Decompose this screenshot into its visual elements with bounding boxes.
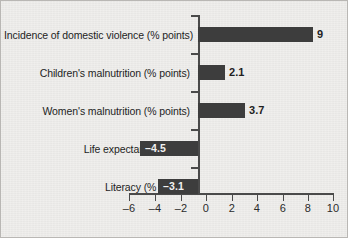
bar-childrens-malnutrition	[198, 65, 225, 80]
x-tick	[283, 195, 284, 201]
bar-value-life-expectancy: –4.5	[145, 142, 166, 154]
chart-container: Incidence of domestic violence (% points…	[0, 0, 348, 238]
category-tick	[191, 167, 198, 169]
x-tick	[257, 195, 258, 201]
bar-value-womens-malnutrition: 3.7	[249, 104, 265, 116]
x-tick	[181, 195, 182, 201]
bar-value-domestic-violence: 9	[317, 28, 323, 40]
x-tick	[206, 195, 207, 201]
x-tick-label: 10	[313, 202, 348, 214]
x-tick	[333, 195, 334, 201]
x-tick	[155, 195, 156, 201]
bar-value-literacy: –3.1	[163, 180, 184, 192]
category-tick	[191, 15, 198, 17]
category-tick	[191, 53, 198, 55]
category-label-domestic-violence: Incidence of domestic violence (% points…	[4, 29, 190, 41]
plot-area: Incidence of domestic violence (% points…	[1, 1, 348, 238]
x-tick	[129, 195, 130, 201]
bar-womens-malnutrition	[198, 103, 245, 118]
x-tick	[232, 195, 233, 201]
category-tick	[191, 91, 198, 93]
bar-domestic-violence	[198, 27, 313, 42]
category-label-womens-malnutrition: Women's malnutrition (% points)	[4, 105, 190, 117]
bar-value-childrens-malnutrition: 2.1	[229, 66, 245, 78]
category-label-childrens-malnutrition: Children's malnutrition (% points)	[4, 67, 190, 79]
category-tick	[191, 129, 198, 131]
x-tick	[308, 195, 309, 201]
